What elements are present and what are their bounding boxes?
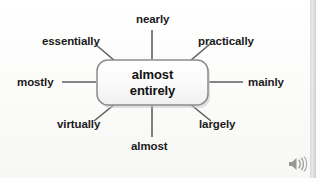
spoke-label-virtually: virtually xyxy=(57,119,100,131)
spoke-label-essentially: essentially xyxy=(42,36,100,48)
center-node-box xyxy=(97,60,208,105)
spoke-label-nearly: nearly xyxy=(136,14,169,26)
slide-canvas: almost entirely nearly practically mainl… xyxy=(0,0,320,178)
spoke-label-almost: almost xyxy=(131,141,167,153)
spoke-label-mainly: mainly xyxy=(248,77,284,89)
slide-right-gutter xyxy=(316,0,320,178)
spoke-label-practically: practically xyxy=(198,36,254,48)
speaker-icon[interactable] xyxy=(287,156,309,172)
spoke-label-largely: largely xyxy=(199,119,235,131)
spoke-label-mostly: mostly xyxy=(17,77,53,89)
